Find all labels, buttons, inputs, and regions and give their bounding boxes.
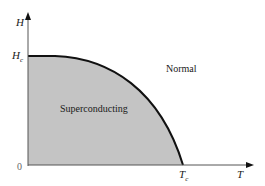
- hc-subscript: c: [20, 56, 23, 64]
- origin-label: 0: [17, 161, 22, 172]
- normal-label: Normal: [166, 63, 197, 74]
- phase-diagram: H Hc 0 Tc T Superconducting Normal: [0, 0, 265, 186]
- phase-diagram-graphic: [0, 0, 265, 186]
- superconducting-label: Superconducting: [60, 103, 128, 114]
- hc-tick-label: Hc: [12, 49, 23, 61]
- y-axis-arrow-icon: [25, 12, 31, 20]
- tc-tick-label: Tc: [179, 168, 188, 180]
- tc-subscript: c: [185, 175, 188, 183]
- x-axis-label: T: [237, 168, 243, 180]
- y-axis-label: H: [16, 16, 24, 28]
- x-axis-arrow-icon: [246, 162, 254, 168]
- hc-main: H: [12, 49, 20, 61]
